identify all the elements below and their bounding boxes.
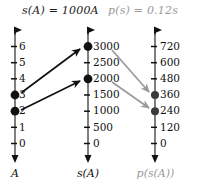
- tick-label-psa-0: 0: [160, 138, 167, 148]
- tick-label-psa-360: 360: [160, 89, 180, 99]
- axis-label-psa: p(s(A)): [128, 167, 183, 180]
- axis-label-sa: s(A): [68, 167, 108, 180]
- tick-label-sa-500: 500: [93, 122, 113, 132]
- tick-label-psa-600: 600: [160, 57, 180, 67]
- axis-label-a: A: [0, 167, 30, 180]
- tick-label-sa-1500: 1500: [93, 89, 120, 99]
- axis-a-arrow-bottom: [12, 155, 19, 163]
- tick-label-a-5: 5: [19, 57, 26, 67]
- tick-label-sa-0: 0: [93, 138, 100, 148]
- tick-label-a-2: 2: [19, 105, 26, 115]
- axis-sa-point-2000: [84, 74, 93, 83]
- tick-label-sa-1000: 1000: [93, 105, 120, 115]
- axis-psa: [151, 30, 159, 163]
- axis-psa-point-360: [151, 91, 159, 99]
- tick-label-sa-2500: 2500: [93, 57, 120, 67]
- axis-sa-point-3000: [84, 42, 93, 51]
- tick-label-a-3: 3: [19, 89, 26, 99]
- tick-label-a-0: 0: [19, 138, 26, 148]
- figure-canvas: s(A) = 1000A p(s) = 0.12s: [0, 0, 198, 182]
- tick-label-psa-480: 480: [160, 73, 180, 83]
- map-arrow-3-to-3000: [21, 49, 80, 93]
- tick-label-a-6: 6: [19, 41, 26, 51]
- axis-sa: [84, 30, 93, 163]
- tick-label-psa-240: 240: [160, 105, 180, 115]
- tick-label-psa-120: 120: [160, 122, 180, 132]
- axis-sa-ticks: [84, 47, 90, 144]
- tick-label-psa-720: 720: [160, 41, 180, 51]
- axis-sa-arrow-bottom: [85, 155, 92, 163]
- axis-psa-point-240: [151, 107, 159, 115]
- tick-label-sa-3000: 3000: [93, 41, 120, 51]
- mapping-arrows-dark: [21, 49, 80, 110]
- tick-label-sa-2000: 2000: [93, 73, 120, 83]
- tick-label-a-1: 1: [19, 122, 26, 132]
- tick-label-a-4: 4: [19, 73, 26, 83]
- axis-psa-arrow-bottom: [152, 155, 159, 163]
